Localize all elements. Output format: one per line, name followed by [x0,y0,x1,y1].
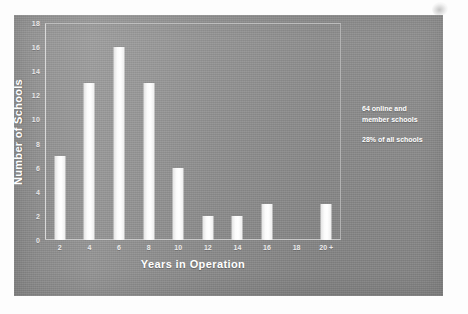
x-tick-label: 18 [293,244,301,251]
y-axis-title: Number of Schools [12,79,24,185]
plot-area: 024681012141618 2468101214161820 + [45,23,341,240]
annotation-line-2: member schools [362,115,454,126]
scanned-page: Number of Schools Years in Operation 024… [0,0,468,314]
bar-slot[interactable]: 2 [45,23,75,240]
bar-slot[interactable]: 20 + [311,23,341,240]
x-tick-label: 8 [147,244,151,251]
bar[interactable] [143,83,154,240]
y-tick-label: 10 [32,116,40,123]
bar[interactable] [84,83,95,240]
bar-slot[interactable]: 12 [193,23,223,240]
y-tick-label: 12 [32,92,40,99]
bar[interactable] [202,216,213,240]
bar-slot[interactable]: 10 [163,23,193,240]
bar[interactable] [321,204,332,240]
bar-slot[interactable]: 6 [104,23,134,240]
bar[interactable] [232,216,243,240]
x-tick-label: 4 [87,244,91,251]
x-tick-label: 12 [204,244,212,251]
bar-slot[interactable]: 18 [282,23,312,240]
x-tick-label: 14 [233,244,241,251]
annotation-block-percent: 28% of all schools [362,135,454,146]
x-tick-label: 16 [263,244,271,251]
x-tick-label: 20 + [319,244,333,251]
x-tick-label: 6 [117,244,121,251]
bar[interactable] [173,168,184,240]
y-tick-label: 18 [32,20,40,27]
annotation-line-1: 64 online and [362,104,454,115]
chart-annotation: 64 online and member schools 28% of all … [362,104,454,146]
x-axis-title: Years in Operation [45,258,341,270]
bar-slot[interactable]: 16 [252,23,282,240]
annotation-line-3: 28% of all schools [362,135,454,146]
y-tick-label: 14 [32,68,40,75]
bar[interactable] [54,156,65,240]
annotation-block-schools: 64 online and member schools [362,104,454,126]
bar-slot[interactable]: 4 [75,23,105,240]
y-tick-label: 8 [36,140,40,147]
y-tick-label: 6 [36,164,40,171]
y-tick-label: 4 [36,188,40,195]
y-tick-label: 2 [36,212,40,219]
bar[interactable] [261,204,272,240]
y-tick-label: 16 [32,44,40,51]
bar-slot[interactable]: 14 [223,23,253,240]
bar-slot[interactable]: 8 [134,23,164,240]
bar[interactable] [113,47,124,240]
x-tick-label: 10 [174,244,182,251]
y-tick-label: 0 [36,237,40,244]
x-tick-label: 2 [58,244,62,251]
